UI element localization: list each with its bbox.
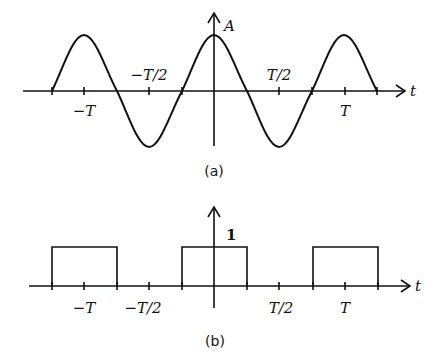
- figure: A t −T −T/2 T/2 T (a) 1 t −T −T/2 T/2 T …: [0, 0, 444, 364]
- amplitude-label-a: A: [222, 17, 235, 35]
- caption-a: (a): [204, 163, 224, 179]
- tick-label-neg-t-a: −T: [73, 102, 97, 120]
- t-axis-label-b: t: [415, 277, 422, 295]
- plot-a: [23, 13, 405, 147]
- tick-label-neg-half-a: −T/2: [130, 66, 167, 84]
- tick-label-neg-t-b: −T: [73, 299, 97, 317]
- tick-label-pos-half-b: T/2: [269, 299, 294, 317]
- plot-b: [29, 207, 410, 308]
- pulse-right: [313, 247, 378, 286]
- amplitude-label-b: 1: [226, 226, 236, 244]
- tick-label-neg-half-b: −T/2: [124, 299, 161, 317]
- pulse-left: [52, 247, 117, 286]
- tick-label-pos-t-b: T: [340, 299, 351, 317]
- tick-label-pos-t-a: T: [340, 102, 351, 120]
- t-axis-label-a: t: [410, 82, 417, 100]
- tick-label-pos-half-a: T/2: [267, 66, 292, 84]
- caption-b: (b): [205, 333, 225, 349]
